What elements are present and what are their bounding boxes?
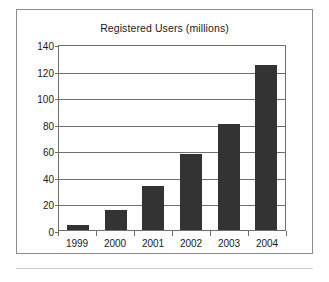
x-axis-label-2001: 2001 xyxy=(134,238,172,249)
bar-slot xyxy=(210,46,248,230)
bar-1999[interactable] xyxy=(67,225,89,230)
x-axis-tick xyxy=(134,231,135,236)
x-axis-tick xyxy=(58,231,59,236)
plot-area: 020406080100120140 xyxy=(58,45,286,231)
x-axis-labels: 199920002001200220032004 xyxy=(58,238,286,249)
y-axis-tick-label: 140 xyxy=(37,41,54,52)
y-axis-tick-label: 100 xyxy=(37,94,54,105)
figure-frame: Registered Users (millions) 020406080100… xyxy=(16,9,313,254)
x-axis-label-1999: 1999 xyxy=(58,238,96,249)
x-axis-tick xyxy=(96,231,97,236)
bar-slot xyxy=(172,46,210,230)
bars-layer xyxy=(59,46,285,230)
x-axis-label-2004: 2004 xyxy=(248,238,286,249)
bar-slot xyxy=(97,46,135,230)
bar-2000[interactable] xyxy=(105,210,127,230)
y-axis-tick-label: 80 xyxy=(43,120,54,131)
bar-2004[interactable] xyxy=(255,65,277,230)
bar-2003[interactable] xyxy=(218,124,240,230)
x-axis-label-2003: 2003 xyxy=(210,238,248,249)
x-axis-tick xyxy=(248,231,249,236)
x-axis-tick xyxy=(286,231,287,236)
y-axis-tick-label: 40 xyxy=(43,173,54,184)
x-axis-ticks xyxy=(58,231,286,237)
y-axis-tick-label: 0 xyxy=(48,227,54,238)
y-axis-tick-label: 60 xyxy=(43,147,54,158)
y-axis-tick-label: 120 xyxy=(37,67,54,78)
bar-2001[interactable] xyxy=(142,186,164,230)
bar-slot xyxy=(59,46,97,230)
x-axis-tick xyxy=(172,231,173,236)
bar-slot xyxy=(247,46,285,230)
x-axis-label-2002: 2002 xyxy=(172,238,210,249)
y-axis-tick-label: 20 xyxy=(43,200,54,211)
x-axis-label-2000: 2000 xyxy=(96,238,134,249)
bar-2002[interactable] xyxy=(180,154,202,230)
bottom-divider xyxy=(16,268,313,269)
x-axis-tick xyxy=(210,231,211,236)
chart-title: Registered Users (millions) xyxy=(17,22,312,34)
bar-slot xyxy=(134,46,172,230)
